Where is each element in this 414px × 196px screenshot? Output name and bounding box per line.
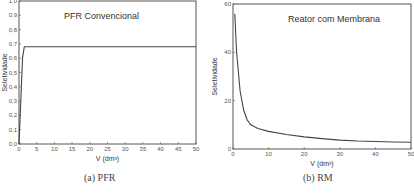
chart-title: PFR Convencional xyxy=(64,11,139,21)
plot-frame xyxy=(19,1,196,144)
x-tick-label: 30 xyxy=(336,151,343,157)
x-tick-label: 15 xyxy=(69,146,76,152)
y-tick-label: 0,6 xyxy=(9,55,18,61)
y-tick-label: 0,9 xyxy=(9,12,18,18)
x-axis-label: V (dm³) xyxy=(310,160,333,168)
x-tick-label: 0 xyxy=(17,146,21,152)
x-tick-label: 10 xyxy=(265,151,272,157)
chart-title: Reator com Membrana xyxy=(288,14,380,24)
y-tick-label: 0,8 xyxy=(9,27,18,33)
x-tick-label: 40 xyxy=(157,146,164,152)
x-tick-label: 10 xyxy=(51,146,58,152)
x-axis-label: V (dm³) xyxy=(96,155,119,163)
y-axis-label: Seletividade xyxy=(1,53,8,91)
y-tick-label: 1,0 xyxy=(9,0,18,4)
x-tick-label: 25 xyxy=(104,146,111,152)
y-tick-label: 20 xyxy=(224,98,231,104)
selectivity-curve xyxy=(19,47,196,144)
selectivity-curve xyxy=(235,14,411,143)
y-tick-label: 0,2 xyxy=(9,112,18,118)
caption-a: (a) PFR xyxy=(84,172,115,183)
y-tick-label: 0,0 xyxy=(9,141,18,147)
y-tick-label: 60 xyxy=(224,1,231,7)
x-tick-label: 50 xyxy=(408,151,414,157)
x-tick-label: 35 xyxy=(140,146,147,152)
x-tick-label: 5 xyxy=(35,146,39,152)
y-axis-label: Seletividade xyxy=(211,57,218,95)
y-tick-label: 0,1 xyxy=(9,127,18,133)
chart-figure: 051015202530354045500,00,10,20,30,40,50,… xyxy=(0,0,414,196)
x-tick-label: 20 xyxy=(301,151,308,157)
y-tick-label: 0,7 xyxy=(9,41,18,47)
caption-b: (b) RM xyxy=(303,172,333,183)
x-tick-label: 50 xyxy=(193,146,200,152)
x-tick-label: 20 xyxy=(86,146,93,152)
y-tick-label: 0,3 xyxy=(9,98,18,104)
plot-frame xyxy=(233,4,411,149)
y-tick-label: 40 xyxy=(224,49,231,55)
x-tick-label: 45 xyxy=(175,146,182,152)
x-tick-label: 0 xyxy=(231,151,235,157)
y-tick-label: 0,5 xyxy=(9,70,18,76)
x-tick-label: 30 xyxy=(122,146,129,152)
y-tick-label: 0,4 xyxy=(9,84,18,90)
x-tick-label: 40 xyxy=(372,151,379,157)
